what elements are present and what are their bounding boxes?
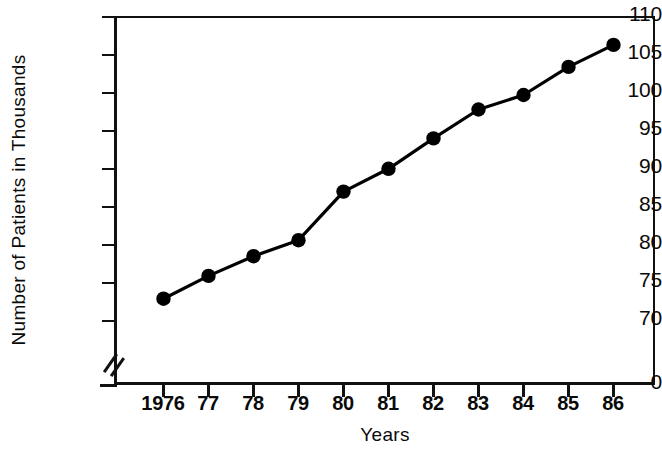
y-tick-0	[100, 384, 117, 387]
x-tick-label-86: 86	[591, 392, 635, 415]
y-tick-110	[102, 16, 115, 18]
x-axis-title: Years	[114, 424, 656, 446]
y-tick-95	[102, 130, 115, 132]
chart-figure: Number of Patients in Thousands 110 105 …	[0, 0, 662, 458]
y-tick-70	[102, 320, 115, 322]
x-tick-label-84: 84	[501, 392, 545, 415]
y-tick-label-105: 105	[566, 40, 662, 64]
x-tick-label-80: 80	[321, 392, 365, 415]
y-tick-label-110: 110	[566, 2, 662, 26]
y-tick-label-80: 80	[566, 230, 662, 254]
y-tick-105	[102, 54, 115, 56]
y-tick-90	[102, 168, 115, 170]
y-tick-100	[102, 92, 115, 94]
y-axis-title: Number of Patients in Thousands	[2, 0, 36, 400]
x-tick-label-82: 82	[411, 392, 455, 415]
y-tick-75	[102, 282, 115, 284]
y-tick-label-70: 70	[566, 306, 662, 330]
x-tick-label-85: 85	[546, 392, 590, 415]
y-tick-85	[102, 206, 115, 208]
y-tick-label-90: 90	[566, 154, 662, 178]
x-tick-label-83: 83	[456, 392, 500, 415]
axis-break-icon	[103, 352, 127, 382]
x-tick-label-81: 81	[366, 392, 410, 415]
y-tick-label-85: 85	[566, 192, 662, 216]
y-tick-80	[102, 244, 115, 246]
x-tick-label-78: 78	[231, 392, 275, 415]
x-tick-label-79: 79	[276, 392, 320, 415]
y-tick-label-75: 75	[566, 268, 662, 292]
y-tick-label-95: 95	[566, 116, 662, 140]
x-tick-label-77: 77	[186, 392, 230, 415]
y-tick-label-100: 100	[566, 78, 662, 102]
